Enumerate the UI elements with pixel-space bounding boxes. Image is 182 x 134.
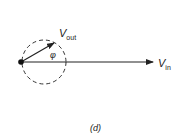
panel-label: (d) bbox=[90, 123, 101, 133]
vout-label: Vout bbox=[59, 27, 76, 41]
phi-angle-label: φ bbox=[50, 50, 56, 60]
phasor-diagram: Vout φ Vin (d) bbox=[0, 0, 182, 134]
vin-label: Vin bbox=[158, 57, 171, 71]
origin-dot bbox=[18, 59, 24, 65]
